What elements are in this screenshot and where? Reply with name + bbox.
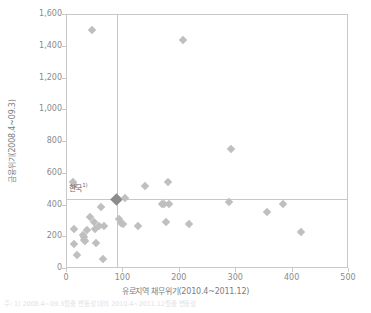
x-tick-mark bbox=[66, 268, 67, 272]
y-tick-label: 1,200 bbox=[2, 74, 62, 82]
point-annotation-label: 한국1) bbox=[69, 183, 88, 193]
data-point bbox=[133, 222, 141, 230]
x-tick-label: 300 bbox=[215, 274, 255, 282]
y-tick-label: 0 bbox=[2, 264, 62, 272]
y-tick-label: 200 bbox=[2, 232, 62, 240]
x-tick-mark bbox=[348, 268, 349, 272]
data-point bbox=[70, 239, 78, 247]
x-tick-mark bbox=[292, 268, 293, 272]
y-tick-label: 400 bbox=[2, 201, 62, 209]
data-point bbox=[263, 208, 271, 216]
x-tick-label: 200 bbox=[159, 274, 199, 282]
y-tick-label: 800 bbox=[2, 137, 62, 145]
data-point bbox=[92, 239, 100, 247]
x-tick-label: 100 bbox=[102, 274, 142, 282]
plot-area: 한국1) bbox=[66, 14, 348, 268]
data-point bbox=[141, 182, 149, 190]
reference-line-vertical bbox=[117, 15, 118, 267]
x-tick-label: 0 bbox=[46, 274, 86, 282]
y-tick-label: 1,400 bbox=[2, 42, 62, 50]
data-point bbox=[98, 255, 106, 263]
scatter-chart-figure: 금융위기(2008.4~09.3) 02004006008001,0001,20… bbox=[0, 0, 371, 313]
annotation-text: 한국 bbox=[69, 184, 83, 193]
x-axis-title: 유로지역 채무위기(2010.4~2011.12) bbox=[0, 288, 371, 296]
x-tick-mark bbox=[179, 268, 180, 272]
data-point bbox=[99, 222, 107, 230]
x-tick-mark bbox=[122, 268, 123, 272]
data-point bbox=[165, 200, 173, 208]
annotation-superscript: 1) bbox=[82, 182, 87, 188]
data-point bbox=[81, 237, 89, 245]
data-point bbox=[88, 26, 96, 34]
data-point bbox=[226, 145, 234, 153]
y-tick-label: 1,600 bbox=[2, 10, 62, 18]
data-point bbox=[121, 193, 129, 201]
data-point bbox=[97, 203, 105, 211]
data-point bbox=[161, 218, 169, 226]
x-tick-mark bbox=[235, 268, 236, 272]
data-point bbox=[279, 200, 287, 208]
chart-footnote: 주: 1) 2008.4~09.3월중 변동성 대비 2010.4~2011.1… bbox=[4, 301, 196, 308]
data-point bbox=[185, 220, 193, 228]
data-point bbox=[73, 250, 81, 258]
data-point bbox=[297, 227, 305, 235]
x-tick-label: 400 bbox=[272, 274, 312, 282]
data-point bbox=[70, 224, 78, 232]
x-tick-label: 500 bbox=[328, 274, 368, 282]
data-point bbox=[164, 177, 172, 185]
y-tick-label: 1,000 bbox=[2, 105, 62, 113]
data-point bbox=[178, 35, 186, 43]
y-tick-label: 600 bbox=[2, 169, 62, 177]
